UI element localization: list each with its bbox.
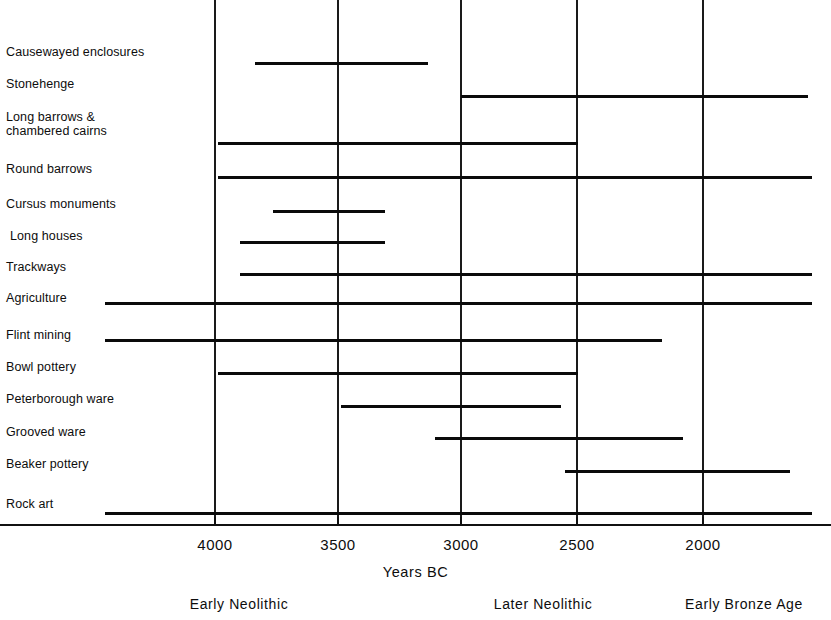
row-label-peterborough-ware: Peterborough ware: [6, 392, 114, 406]
bar-long-barrows-chambered-cairns: [218, 142, 578, 145]
period-label-later-neolithic: Later Neolithic: [494, 596, 593, 612]
x-axis-line: [0, 524, 831, 526]
tick-3500: [337, 517, 339, 526]
gridline-3500: [337, 0, 339, 525]
bar-trackways: [240, 273, 812, 276]
bar-agriculture: [105, 302, 812, 305]
row-label-stonehenge: Stonehenge: [6, 77, 74, 91]
bar-stonehenge: [461, 95, 808, 98]
tick-label-2500: 2500: [559, 536, 594, 553]
tick-2500: [576, 517, 578, 526]
gridline-2500: [576, 0, 578, 525]
row-label-long-houses: Long houses: [10, 229, 83, 243]
row-label-round-barrows: Round barrows: [6, 162, 92, 176]
row-label-flint-mining: Flint mining: [6, 328, 71, 342]
x-axis-title: Years BC: [0, 564, 831, 580]
gridline-3000: [460, 0, 462, 525]
plot-area: [0, 0, 831, 525]
tick-4000: [214, 517, 216, 526]
row-label-agriculture: Agriculture: [6, 291, 67, 305]
row-label-beaker-pottery: Beaker pottery: [6, 457, 89, 471]
bar-round-barrows: [218, 176, 812, 179]
period-label-early-neolithic: Early Neolithic: [190, 596, 288, 612]
row-label-causewayed-enclosures: Causewayed enclosures: [6, 45, 144, 59]
bar-rock-art: [105, 512, 812, 515]
tick-label-3000: 3000: [443, 536, 478, 553]
tick-label-3500: 3500: [320, 536, 355, 553]
bar-peterborough-ware: [341, 405, 561, 408]
bar-bowl-pottery: [218, 372, 578, 375]
tick-label-2000: 2000: [685, 536, 720, 553]
row-label-rock-art: Rock art: [6, 497, 53, 511]
tick-2000: [702, 517, 704, 526]
gridline-4000: [214, 0, 216, 525]
period-label-early-bronze-age: Early Bronze Age: [685, 596, 803, 612]
row-label-grooved-ware: Grooved ware: [6, 425, 86, 439]
row-label-bowl-pottery: Bowl pottery: [6, 360, 76, 374]
archaeology-timeline-chart: Causewayed enclosuresStonehengeLong barr…: [0, 0, 831, 620]
tick-label-4000: 4000: [197, 536, 232, 553]
row-label-trackways: Trackways: [6, 260, 66, 274]
row-label-cursus-monuments: Cursus monuments: [6, 197, 116, 211]
bar-causewayed-enclosures: [255, 62, 428, 65]
row-label-long-barrows-chambered-cairns: Long barrows & chambered cairns: [6, 110, 107, 138]
bar-grooved-ware: [435, 437, 683, 440]
bar-cursus-monuments: [273, 210, 385, 213]
bar-beaker-pottery: [565, 470, 790, 473]
gridline-2000: [702, 0, 704, 525]
tick-3000: [460, 517, 462, 526]
bar-flint-mining: [105, 339, 662, 342]
bar-long-houses: [240, 241, 385, 244]
